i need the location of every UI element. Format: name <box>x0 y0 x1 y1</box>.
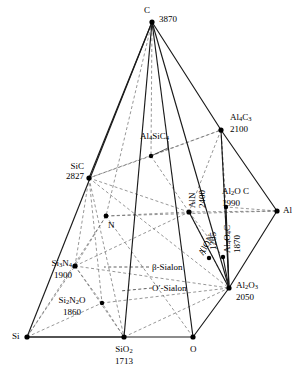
label-sic: SiC 2827 <box>34 161 84 181</box>
edge-c-sio2 <box>124 22 152 337</box>
dot-si3n4[interactable] <box>72 263 77 268</box>
dot-sic[interactable] <box>86 175 91 180</box>
label-sio2: SiO2 1713 <box>104 344 144 366</box>
label-alon-value: 1265 <box>208 232 218 250</box>
label-aln-value: 2400 <box>197 190 207 208</box>
dot-al2o3[interactable] <box>226 285 231 290</box>
dot-si2n2o[interactable] <box>100 301 104 305</box>
label-si3n4: Si3N4 1900 <box>16 258 72 280</box>
dot-n[interactable] <box>104 214 109 219</box>
label-c: C <box>144 5 150 15</box>
dot-si[interactable] <box>24 334 29 339</box>
label-aln: AlN <box>187 193 197 209</box>
tie-sio2-al2o3 <box>124 288 229 337</box>
dot-o[interactable] <box>190 334 195 339</box>
dot-c[interactable] <box>149 19 154 24</box>
label-al2o3: Al2O3 2050 <box>236 280 258 302</box>
label-n: N <box>108 220 115 230</box>
label-c-value: 3870 <box>159 14 177 24</box>
edge-o-al <box>193 211 277 337</box>
dot-al4c3[interactable] <box>218 127 223 132</box>
label-si2n2o: Si2N2O 1860 <box>44 295 100 317</box>
leader-al4sic4 <box>151 141 168 156</box>
dot-alon[interactable] <box>207 256 211 260</box>
label-al: Al <box>283 205 292 215</box>
label-o: O <box>190 344 197 354</box>
label-al2oc: Al2O C 1990 <box>222 186 249 208</box>
label-al4c3: Al4C3 2100 <box>230 112 252 134</box>
edge-al-c <box>152 22 277 211</box>
phase-diagram: C 3870 Al4C3 2100 SiC 2827 Al AlN 2400 N… <box>0 0 302 378</box>
dot-al[interactable] <box>274 208 279 213</box>
diagram-canvas <box>0 0 302 378</box>
leader-o-sialon <box>120 288 152 291</box>
dot-sio2[interactable] <box>121 334 126 339</box>
label-al4o4c-value: 1870 <box>232 235 242 253</box>
label-o-sialon: O′-Sialon <box>152 283 186 293</box>
tie-si3n4-aln <box>75 212 189 266</box>
label-al4sic4: Al4SiC4 <box>140 131 169 143</box>
dot-al4o4c[interactable] <box>221 255 225 259</box>
label-si: Si <box>12 331 20 341</box>
label-beta-sialon: β-Sialon <box>152 262 183 272</box>
dot-aln[interactable] <box>186 209 191 214</box>
tie-al4sic4-sic <box>89 156 151 178</box>
